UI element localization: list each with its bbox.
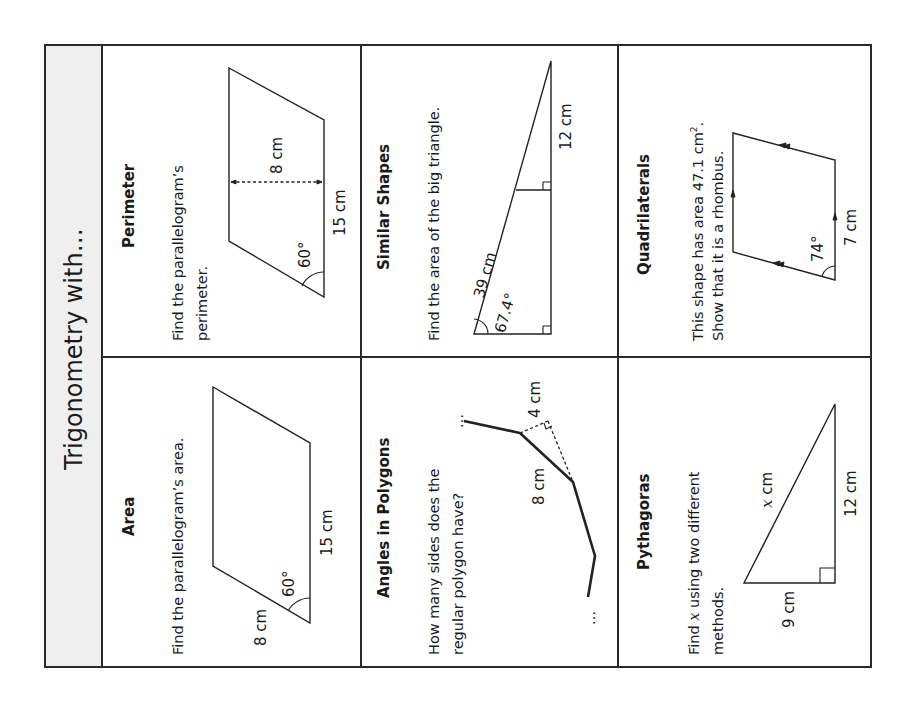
rhombus-diagram: [0, 0, 919, 718]
worksheet: Trigonometry with… Area Find the paralle…: [0, 0, 919, 718]
side-label: 7 cm: [842, 209, 860, 246]
angle-label: 74°: [809, 235, 827, 262]
